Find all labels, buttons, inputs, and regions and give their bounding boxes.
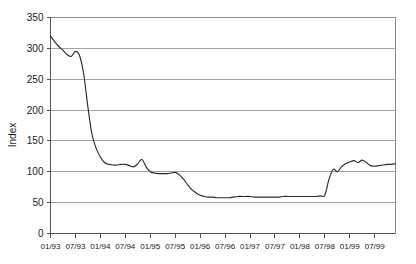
x-tick-label: 07/98: [315, 242, 336, 251]
x-tick-label: 07/99: [365, 242, 386, 251]
y-tick-label: 300: [27, 43, 44, 54]
series-line: [51, 36, 396, 198]
plot-frame: [51, 18, 396, 234]
x-axis-labels-group: 01/9307/9301/9407/9401/9507/9501/9607/96…: [40, 242, 385, 251]
x-tick-label: 01/96: [190, 242, 211, 251]
y-tick-label: 150: [27, 135, 44, 146]
y-tick-label: 350: [27, 12, 44, 23]
x-tick-label: 01/97: [240, 242, 261, 251]
x-tick-label: 01/99: [340, 242, 361, 251]
x-tick-label: 07/96: [215, 242, 236, 251]
y-axis-labels-group: 050100150200250300350: [27, 12, 44, 239]
x-tick-label: 07/95: [165, 242, 186, 251]
chart-container: 050100150200250300350 01/9307/9301/9407/…: [0, 0, 416, 264]
y-tick-label: 0: [38, 228, 44, 239]
y-tick-label: 100: [27, 166, 44, 177]
y-axis-title: Index: [7, 123, 18, 147]
x-axis-ticks-group: [51, 234, 375, 238]
line-chart: 050100150200250300350 01/9307/9301/9407/…: [0, 0, 416, 264]
x-tick-label: 07/94: [115, 242, 136, 251]
y-tick-label: 50: [32, 197, 44, 208]
x-tick-label: 01/95: [140, 242, 161, 251]
y-tick-label: 250: [27, 74, 44, 85]
gridlines-group: [51, 18, 396, 203]
data-series-group: [51, 36, 396, 198]
y-tick-label: 200: [27, 105, 44, 116]
x-tick-label: 01/98: [290, 242, 311, 251]
x-tick-label: 01/94: [90, 242, 111, 251]
x-tick-label: 07/97: [265, 242, 286, 251]
y-axis-ticks-group: [47, 18, 51, 234]
x-tick-label: 01/93: [40, 242, 61, 251]
x-tick-label: 07/93: [65, 242, 86, 251]
